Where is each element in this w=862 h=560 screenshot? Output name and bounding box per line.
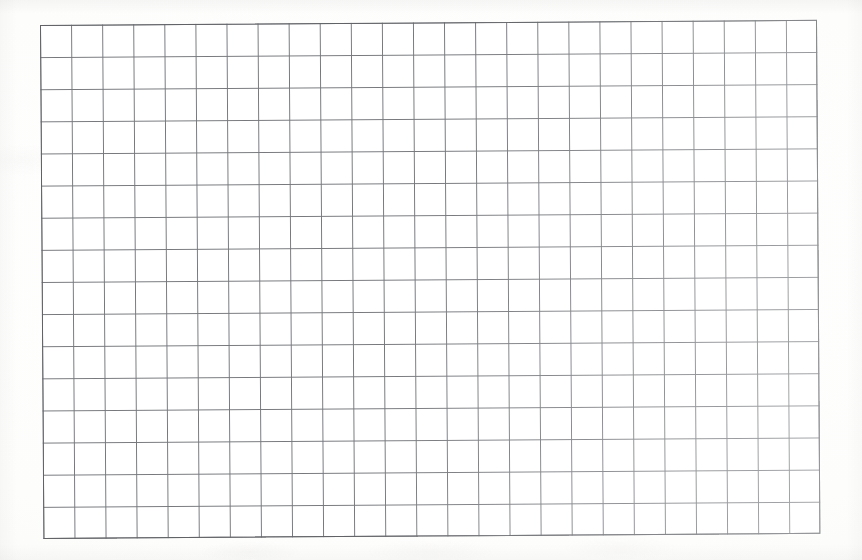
scanned-page: Blank grid paper scan [0, 0, 862, 560]
grid-paper-block [40, 20, 820, 539]
grid-lines [40, 20, 820, 539]
